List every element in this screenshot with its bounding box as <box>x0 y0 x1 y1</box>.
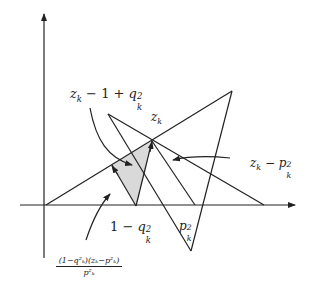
formula-fraction: (1−q²ₖ)(zₖ−p²ₖ) p²ₖ <box>56 256 122 277</box>
label-pk2: p2k <box>179 220 187 232</box>
label-zk-center: zk <box>151 111 162 126</box>
shaded-region <box>112 141 152 206</box>
formula-denominator: p²ₖ <box>56 267 122 277</box>
edge-topright-bottom <box>191 91 232 251</box>
edge-apex-right <box>152 141 195 205</box>
label-1-minus-qk2: 1 − q2k <box>110 220 146 233</box>
arrow-formula <box>86 194 110 240</box>
diagram-canvas <box>0 0 311 292</box>
formula-numerator: (1−q²ₖ)(zₖ−p²ₖ) <box>56 256 122 267</box>
label-zk-minus-1-plus-qk2: zk − 1 + q2k <box>70 87 137 103</box>
label-zk-minus-pk2: zk − p2k <box>250 157 286 172</box>
